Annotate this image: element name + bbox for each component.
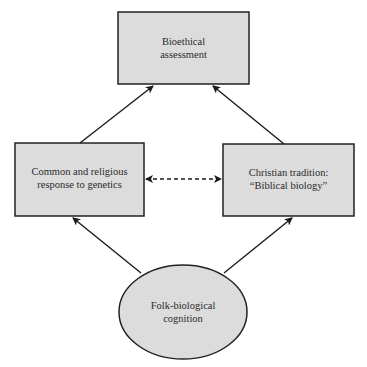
node-christian-label-line1: Christian tradition: (249, 166, 329, 179)
node-christian-label-line2: “Biblical biology” (249, 179, 329, 192)
node-common-label-line2: response to genetics (31, 178, 127, 191)
node-bioethical: Bioethical assessment (118, 12, 249, 84)
node-folk: Folk-biological cognition (119, 265, 247, 359)
node-bioethical-label-line1: Bioethical (160, 35, 207, 48)
edge-common-to-bioethical (80, 86, 153, 143)
node-folk-label-line1: Folk-biological (151, 299, 216, 312)
node-common: Common and religious response to genetic… (15, 143, 144, 213)
edge-christian-to-bioethical (213, 86, 284, 144)
node-christian: Christian tradition: “Biblical biology” (223, 144, 354, 214)
node-common-label-line1: Common and religious (31, 165, 127, 178)
node-folk-label-line2: cognition (151, 312, 216, 325)
node-bioethical-label-line2: assessment (160, 48, 207, 61)
